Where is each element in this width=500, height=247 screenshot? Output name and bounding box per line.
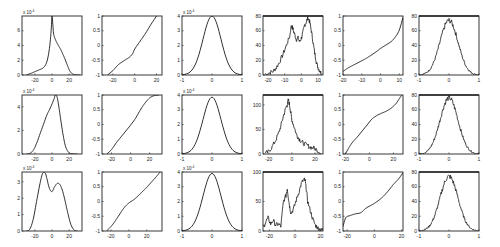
- x-tick-label: -10: [281, 77, 288, 83]
- data-line: [265, 16, 322, 75]
- x-tick-label: 1: [478, 77, 481, 83]
- y-tick-label: 1: [338, 13, 341, 19]
- data-line: [343, 17, 403, 71]
- x-tick-label: -20: [343, 233, 350, 239]
- data-line: [263, 178, 323, 231]
- x-tick-label: 0: [373, 233, 376, 239]
- y-tick-label: 0: [258, 72, 261, 78]
- y-tick-label: 1: [338, 92, 341, 98]
- y-tick-label: -1: [96, 72, 101, 78]
- y-tick-label: 0: [258, 228, 261, 234]
- y-tick-label: 2: [177, 121, 180, 127]
- y-tick-label: -0.5: [332, 57, 341, 63]
- x-tick-label: 0: [379, 77, 382, 83]
- y-exponent-label: x 10-4: [23, 165, 35, 171]
- y-tick-label: 6: [17, 27, 20, 33]
- y-exponent-label: x 10-4: [183, 88, 195, 94]
- y-tick-label: 2: [177, 42, 180, 48]
- y-tick-label: 1: [17, 211, 20, 217]
- data-line: [26, 95, 77, 154]
- y-tick-label: 1: [97, 13, 100, 19]
- x-tick-label: -1: [180, 77, 185, 83]
- x-tick-label: 0: [51, 233, 54, 239]
- y-tick-label: 40: [411, 42, 417, 48]
- y-tick-label: 4: [177, 169, 180, 175]
- data-line: [419, 18, 479, 75]
- data-line: [107, 95, 159, 154]
- axes-frame: [22, 172, 82, 231]
- x-tick-label: 20: [399, 233, 405, 239]
- y-tick-label: -1: [96, 228, 101, 234]
- subplot-r3c5: -20020-1-0.500.51: [332, 169, 404, 239]
- data-line: [106, 172, 160, 231]
- x-tick-label: -1: [417, 233, 422, 239]
- y-tick-label: 0.5: [334, 106, 341, 112]
- axes-frame: [343, 172, 403, 231]
- x-tick-label: 0: [294, 233, 297, 239]
- x-tick-label: -20: [31, 77, 38, 83]
- subplot-r3c3: -10101234x 10-4: [177, 165, 243, 239]
- x-tick-label: 20: [147, 156, 153, 162]
- y-tick-label: 0.5: [334, 183, 341, 189]
- y-tick-label: 0.5: [93, 27, 100, 33]
- axes-frame: [343, 95, 403, 154]
- y-tick-label: 1: [177, 57, 180, 63]
- y-tick-label: 1: [97, 169, 100, 175]
- data-line: [343, 173, 403, 227]
- x-tick-label: -10: [358, 77, 365, 83]
- data-line: [107, 16, 156, 75]
- y-tick-label: -1: [337, 151, 342, 157]
- y-tick-label: 0: [17, 228, 20, 234]
- y-tick-label: 20: [255, 57, 261, 63]
- x-tick-label: 0: [211, 233, 214, 239]
- subplot-r1c1: -200200246x 10-4: [17, 9, 82, 83]
- y-tick-label: -0.5: [332, 136, 341, 142]
- y-tick-label: 4: [17, 104, 20, 110]
- y-tick-label: 80: [411, 13, 417, 19]
- y-exponent-label: x 10-4: [183, 165, 195, 171]
- y-tick-label: 100: [253, 169, 262, 175]
- y-tick-label: 60: [411, 183, 417, 189]
- y-tick-label: 0: [17, 151, 20, 157]
- y-tick-label: 0: [414, 151, 417, 157]
- y-tick-label: 0: [338, 198, 341, 204]
- y-tick-label: -0.5: [91, 213, 100, 219]
- data-line: [182, 97, 242, 154]
- y-tick-label: 0: [338, 121, 341, 127]
- y-tick-label: 40: [411, 121, 417, 127]
- x-tick-label: 1: [241, 156, 244, 162]
- y-tick-label: 80: [411, 169, 417, 175]
- data-line: [26, 172, 77, 231]
- x-tick-label: -20: [31, 233, 38, 239]
- y-tick-label: -0.5: [91, 136, 100, 142]
- x-tick-label: 0: [129, 156, 132, 162]
- x-tick-label: 20: [318, 233, 324, 239]
- y-tick-label: 2: [17, 127, 20, 133]
- subplot-r3c4: -20020050100: [253, 169, 324, 239]
- axes-frame: [419, 16, 479, 75]
- y-tick-label: 60: [411, 27, 417, 33]
- x-tick-label: 20: [144, 233, 150, 239]
- y-tick-label: 1: [338, 169, 341, 175]
- x-tick-label: -20: [108, 156, 115, 162]
- y-tick-label: 3: [177, 106, 180, 112]
- subplot-r2c5: -20020-1-0.500.51: [332, 92, 403, 162]
- axes-frame: [182, 172, 242, 231]
- axes-frame: [22, 16, 82, 75]
- y-tick-label: 0: [338, 42, 341, 48]
- x-tick-label: 0: [300, 77, 303, 83]
- y-tick-label: 0: [97, 42, 100, 48]
- y-tick-label: 0: [97, 121, 100, 127]
- x-tick-label: 0: [211, 77, 214, 83]
- x-tick-label: -20: [265, 156, 272, 162]
- y-tick-label: 1: [177, 213, 180, 219]
- y-tick-label: -0.5: [332, 213, 341, 219]
- x-tick-label: 0: [211, 156, 214, 162]
- x-tick-label: -20: [264, 77, 271, 83]
- y-tick-label: 0: [17, 72, 20, 78]
- subplot-r1c4: -20-10010020406080: [255, 13, 323, 83]
- x-tick-label: 0: [290, 156, 293, 162]
- x-tick-label: 10: [315, 77, 321, 83]
- data-line: [182, 173, 242, 230]
- y-tick-label: 0: [177, 228, 180, 234]
